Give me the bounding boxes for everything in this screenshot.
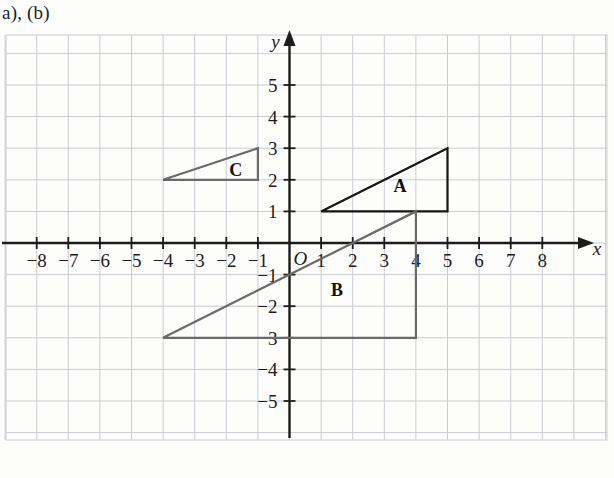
x-axis-tick-label: −3 — [185, 250, 205, 271]
x-axis-tick-label: 8 — [538, 250, 548, 271]
shape-triangle-c — [163, 148, 258, 180]
axes — [2, 30, 594, 438]
y-axis-tick-label: −4 — [257, 359, 278, 380]
x-axis-tick-label: −6 — [90, 250, 110, 271]
y-axis-tick-label: 4 — [268, 107, 278, 128]
y-axis-name: y — [269, 31, 280, 52]
y-axis-tick-label: 3 — [268, 138, 278, 159]
x-axis-tick-label: −2 — [216, 250, 236, 271]
x-axis-tick-label: 7 — [506, 250, 516, 271]
axis-names: xy — [269, 31, 602, 259]
coordinate-grid-figure: −8−7−6−5−4−3−2−11234567854321−1−2−3−4−5O… — [0, 0, 614, 478]
shape-label-a: A — [394, 176, 407, 196]
x-axis-tick-label: 5 — [443, 250, 453, 271]
x-axis-tick-label: −8 — [27, 250, 47, 271]
shape-label-c: C — [229, 160, 242, 180]
grid-lines — [5, 35, 607, 440]
shape-label-b: B — [331, 280, 343, 300]
x-axis-name: x — [592, 238, 602, 259]
x-axis-tick-label: 6 — [474, 250, 484, 271]
x-axis-tick-label: 2 — [348, 250, 358, 271]
x-axis-arrowhead — [578, 237, 594, 249]
y-axis-tick-label: −5 — [257, 391, 277, 412]
figure-page: a), (b) −8−7−6−5−4−3−2−11234567854321−1−… — [0, 0, 614, 478]
x-axis-tick-label: −7 — [58, 250, 78, 271]
grid-border — [6, 35, 607, 440]
x-axis-tick-label: −4 — [153, 250, 174, 271]
y-axis-tick-label: 5 — [268, 75, 278, 96]
x-axis-tick-label: −5 — [121, 250, 141, 271]
y-axis-tick-label: −2 — [257, 296, 277, 317]
y-axis-tick-label: 2 — [268, 170, 278, 191]
y-axis-tick-label: 1 — [268, 201, 278, 222]
y-axis-arrowhead — [284, 30, 296, 46]
x-axis-tick-label: 3 — [380, 250, 390, 271]
